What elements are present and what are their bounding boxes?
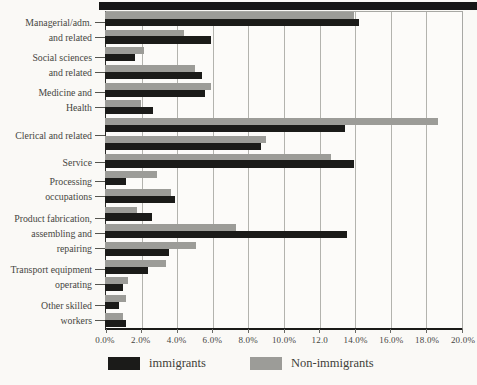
group-bars [105, 207, 463, 260]
non-immigrants-bar [105, 189, 171, 196]
label-leader-dash [95, 196, 105, 197]
label-leader-dash [95, 162, 105, 163]
bar-pair [105, 154, 463, 172]
immigrants-bar [105, 90, 205, 97]
immigrants-bar [105, 19, 359, 26]
category-label-text: and related [49, 65, 92, 80]
non-immigrants-bar [105, 118, 438, 125]
group-bars [105, 47, 463, 82]
bar-pair [105, 47, 463, 65]
bar-group: Processingoccupations [0, 171, 463, 206]
category-label-text: operating [55, 277, 92, 292]
immigrants-bar [105, 267, 148, 274]
bar-pair [105, 171, 463, 189]
legend: immigrants Non-immigrants [108, 356, 374, 371]
legend-item-non-immigrants: Non-immigrants [250, 356, 374, 371]
plot-area: Managerial/adm.and relatedSocial science… [0, 11, 477, 330]
category-label-text: Service [63, 155, 92, 170]
immigrants-bar [105, 72, 202, 79]
group-bars [105, 295, 463, 330]
category-label-line: Processing [0, 174, 105, 189]
label-leader-dash [95, 92, 105, 93]
bar-pair [105, 100, 463, 118]
group-bars [105, 154, 463, 172]
label-leader-dash [95, 22, 105, 23]
legend-label-non-immigrants: Non-immigrants [291, 356, 374, 371]
non-immigrants-bar [105, 224, 236, 231]
label-leader-dash [95, 248, 105, 249]
immigrants-bar [105, 54, 135, 61]
category-label-text: repairing [57, 241, 92, 256]
category-label-text: Product fabrication, [14, 211, 92, 226]
immigrants-bar [105, 302, 119, 309]
bar-group: Managerial/adm.and related [0, 12, 463, 47]
x-axis-tick-label: 12.0 [312, 335, 329, 345]
category-label-text: Medicine and [38, 85, 92, 100]
bar-group: Medicine andHealth [0, 83, 463, 118]
non-immigrants-bar [105, 313, 123, 320]
group-bars [105, 260, 463, 295]
bar-pair [105, 136, 463, 154]
x-axis-tick-label: 6.0% [203, 335, 223, 345]
category-label: Processingoccupations [0, 174, 105, 204]
bar-group: Transport equipmentoperating [0, 260, 463, 295]
legend-label-immigrants: immigrants [149, 356, 206, 371]
bar-pair [105, 295, 463, 313]
immigrants-bar [105, 213, 152, 220]
category-label-line: Managerial/adm. [0, 15, 105, 30]
x-axis-tick-label: 18.0% [415, 335, 439, 345]
x-axis-tick-label: 10.0% [272, 335, 296, 345]
category-label: Social sciencesand related [0, 50, 105, 80]
bar-pair [105, 277, 463, 295]
category-label-line: repairing [0, 241, 105, 256]
group-bars [105, 118, 463, 153]
label-leader-dash [95, 269, 105, 270]
group-bars [105, 12, 463, 47]
bar-pair [105, 12, 463, 30]
category-label-text: and related [49, 30, 92, 45]
non-immigrants-bar [105, 65, 195, 72]
immigrants-swatch [108, 357, 140, 370]
group-bars [105, 171, 463, 206]
category-label-line: Health [0, 100, 105, 115]
non-immigrants-bar [105, 295, 126, 302]
category-label-text: workers [60, 313, 92, 328]
category-label-text: occupations [45, 189, 92, 204]
category-label-line: workers [0, 313, 105, 328]
category-label-line: Service [0, 155, 105, 170]
non-immigrants-bar [105, 30, 184, 37]
immigrants-bar [105, 196, 175, 203]
label-leader-dash [95, 37, 105, 38]
non-immigrants-bar [105, 47, 144, 54]
category-label-line: Medicine and [0, 85, 105, 100]
category-label-line: assembling and [0, 226, 105, 241]
immigrants-bar [105, 284, 123, 291]
label-leader-dash [95, 284, 105, 285]
category-label-text: Clerical and related [15, 128, 92, 143]
category-label-line: operating [0, 277, 105, 292]
category-label-text: assembling and [31, 226, 92, 241]
non-immigrants-bar [105, 83, 211, 90]
category-label: Managerial/adm.and related [0, 15, 105, 45]
immigrants-bar [105, 320, 126, 327]
category-label-line: Transport equipment [0, 262, 105, 277]
x-axis-tick-label: 16.0% [379, 335, 403, 345]
category-label-text: Other skilled [41, 298, 92, 313]
immigrants-bar [105, 36, 211, 43]
immigrants-bar [105, 107, 153, 114]
category-label-line: and related [0, 30, 105, 45]
bar-groups: Managerial/adm.and relatedSocial science… [0, 12, 463, 331]
immigrants-bar [105, 160, 354, 167]
bar-pair [105, 118, 463, 136]
x-axis-tick-label: 14.0% [343, 335, 367, 345]
category-label-text: Transport equipment [10, 262, 92, 277]
label-leader-dash [95, 107, 105, 108]
category-label: Other skilledworkers [0, 298, 105, 328]
bar-pair [105, 224, 463, 242]
category-label: Clerical and related [0, 128, 105, 143]
label-leader-dash [95, 218, 105, 219]
x-axis-tick-label: 4.0% [167, 335, 187, 345]
bar-pair [105, 30, 463, 48]
label-leader-dash [95, 57, 105, 58]
bar-group: Product fabrication,assembling andrepair… [0, 207, 463, 260]
